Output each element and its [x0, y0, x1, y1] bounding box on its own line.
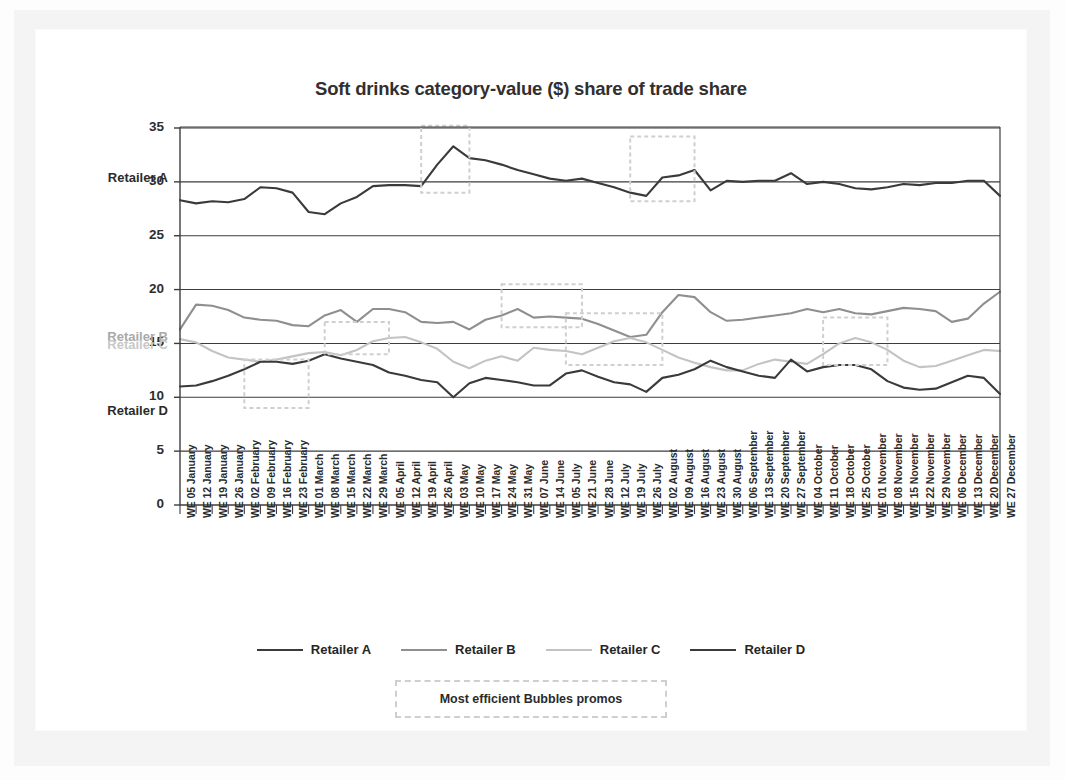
x-axis-tick-label: WE 16 February	[281, 440, 293, 518]
x-axis-tick-label: WE 05 July	[570, 464, 582, 518]
x-axis-tick-label: WE 18 October	[844, 445, 856, 518]
y-axis-tick-label: 0	[134, 496, 164, 511]
x-axis-tick-label: WE 05 January	[185, 445, 197, 518]
legend-swatch	[690, 649, 736, 651]
x-axis-tick-label: WE 26 July	[651, 464, 663, 518]
x-axis-tick-label: WE 01 March	[313, 454, 325, 518]
x-axis-tick-label: WE 11 October	[828, 445, 840, 518]
x-axis-tick-label: WE 29 November	[940, 434, 952, 518]
x-axis-tick-label: WE 12 January	[201, 445, 213, 518]
x-axis-tick-label: WE 01 November	[876, 434, 888, 518]
legend-label: Retailer C	[600, 642, 661, 657]
x-axis-tick-label: WE 23 February	[297, 440, 309, 518]
promo-legend-label: Most efficient Bubbles promos	[440, 692, 623, 706]
x-axis-tick-label: WE 20 December	[988, 434, 1000, 518]
legend-item: Retailer D	[690, 642, 805, 657]
x-axis-tick-label: WE 29 March	[377, 454, 389, 518]
promo-highlight-boxes	[244, 126, 887, 408]
x-axis-tick-label: WE 19 April	[426, 461, 438, 518]
x-axis-tick-label: WE 30 August	[731, 449, 743, 518]
x-axis-tick-label: WE 20 September	[779, 431, 791, 518]
x-axis-tick-label: WE 08 March	[329, 454, 341, 518]
legend-label: Retailer A	[311, 642, 371, 657]
y-axis-tick-label: 5	[134, 442, 164, 457]
series-side-label: Retailer D	[58, 403, 168, 418]
legend-item: Retailer B	[401, 642, 516, 657]
x-axis-tick-label: WE 02 August	[667, 449, 679, 518]
x-axis-tick-label: WE 27 December	[1005, 434, 1017, 518]
y-axis-tick-label: 20	[134, 281, 164, 296]
legend-label: Retailer B	[455, 642, 516, 657]
x-axis-tick-label: WE 09 February	[265, 440, 277, 518]
x-axis-tick-label: WE 04 October	[812, 445, 824, 518]
x-axis-tick-label: WE 26 January	[233, 445, 245, 518]
x-axis-tick-label: WE 19 July	[635, 464, 647, 518]
x-axis-tick-label: WE 07 June	[538, 460, 550, 518]
x-axis-tick-label: WE 31 May	[522, 464, 534, 518]
x-axis-tick-label: WE 27 September	[795, 431, 807, 518]
x-axis-tick-label: WE 16 August	[699, 449, 711, 518]
x-axis-tick-label: WE 19 January	[217, 445, 229, 518]
x-axis-tick-label: WE 10 May	[474, 464, 486, 518]
chart-legend: Retailer ARetailer BRetailer CRetailer D	[36, 642, 1026, 657]
x-axis-tick-label: WE 12 April	[410, 461, 422, 518]
x-axis-tick-label: WE 06 September	[747, 431, 759, 518]
legend-swatch	[546, 649, 592, 651]
series-side-label: Retailer A	[58, 170, 168, 185]
legend-item: Retailer C	[546, 642, 661, 657]
series-side-label: Retailer C	[58, 337, 168, 352]
legend-item: Retailer A	[257, 642, 371, 657]
x-axis-tick-label: WE 17 May	[490, 464, 502, 518]
x-axis-tick-label: WE 09 August	[683, 449, 695, 518]
x-axis-tick-label: WE 03 May	[458, 464, 470, 518]
x-axis-tick-label: WE 02 February	[249, 440, 261, 518]
chart-card: Soft drinks category-value ($) share of …	[36, 30, 1026, 730]
legend-swatch	[257, 649, 303, 651]
x-axis-tick-label: WE 26 April	[442, 461, 454, 518]
x-axis-tick-label: WE 22 November	[924, 434, 936, 518]
x-axis-tick-label: WE 06 December	[956, 434, 968, 518]
x-axis-tick-label: WE 14 June	[554, 460, 566, 518]
x-axis-tick-label: WE 25 October	[860, 445, 872, 518]
x-axis-tick-label: WE 12 July	[619, 464, 631, 518]
y-axis-tick-label: 25	[134, 227, 164, 242]
promo-legend-box: Most efficient Bubbles promos	[395, 680, 667, 718]
x-axis-tick-label: WE 24 May	[506, 464, 518, 518]
x-axis-tick-label: WE 21 June	[586, 460, 598, 518]
x-axis-tick-label: WE 13 September	[763, 431, 775, 518]
x-axis-tick-label: WE 28 June	[603, 460, 615, 518]
y-axis-tick-label: 10	[134, 388, 164, 403]
x-axis-tick-label: WE 15 November	[908, 434, 920, 518]
legend-swatch	[401, 649, 447, 651]
x-axis-tick-label: WE 23 August	[715, 449, 727, 518]
x-axis-tick-label: WE 13 December	[972, 434, 984, 518]
screenshot-root: Soft drinks category-value ($) share of …	[0, 0, 1065, 780]
x-axis-tick-label: WE 22 March	[361, 454, 373, 518]
x-axis-tick-label: WE 08 November	[892, 434, 904, 518]
chart-svg	[36, 30, 1026, 730]
x-axis-tick-label: WE 15 March	[345, 454, 357, 518]
x-axis-tick-label: WE 05 April	[394, 461, 406, 518]
y-axis-tick-label: 35	[134, 119, 164, 134]
legend-label: Retailer D	[744, 642, 805, 657]
chart-plot-area: 05101520253035 WE 05 JanuaryWE 12 Januar…	[36, 30, 1026, 730]
